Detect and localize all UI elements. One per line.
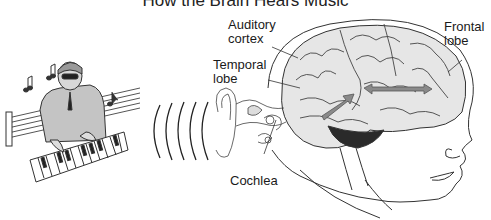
sunglasses-icon [62,74,78,79]
label-line: cortex [228,32,276,46]
label-line: lobe [444,34,484,48]
label-temporal-lobe: Temporal lobe [213,58,266,86]
label-line: Frontal [444,20,484,34]
musician-illustration [6,62,140,182]
label-line: lobe [213,72,266,86]
label-auditory-cortex: Auditory cortex [228,18,276,46]
musician-body [40,85,106,142]
label-frontal-lobe: Frontal lobe [444,20,484,48]
label-line: Auditory [228,18,276,32]
sound-waves-icon [154,102,208,160]
label-line: Temporal [213,58,266,72]
brain-illustration [282,24,466,190]
label-cochlea: Cochlea [230,174,278,188]
